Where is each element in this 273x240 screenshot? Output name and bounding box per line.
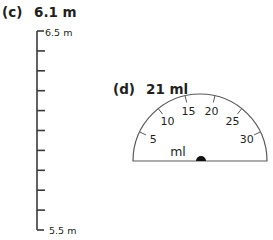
ruler-top-label: 6.5 m [45,27,72,38]
gauge-tick-label: 25 [225,115,239,128]
ruler-bottom-label: 5.5 m [49,225,76,236]
part-c-label: (c) [2,4,22,20]
part-c-reading: 6.1 m [34,4,77,20]
gauge-tick-label: 5 [150,133,157,146]
part-d-label: (d) [113,81,135,97]
part-d-reading: 21 ml [146,81,188,97]
ruler-ticks [37,31,45,230]
vertical-ruler: 6.5 m 5.5 m [37,27,76,236]
measurement-diagram: (c) 6.1 m 6.5 m 5.5 m (d) 21 ml 51015202… [0,0,273,240]
gauge-unit-label: ml [170,144,186,159]
gauge-dial [133,94,267,161]
gauge-tick-label: 20 [205,105,219,118]
gauge-tick-label: 10 [161,115,175,128]
gauge-tick-label: 30 [240,133,254,146]
semicircle-gauge: 51015202530 ml [133,94,267,161]
gauge-tick-label: 15 [181,105,195,118]
